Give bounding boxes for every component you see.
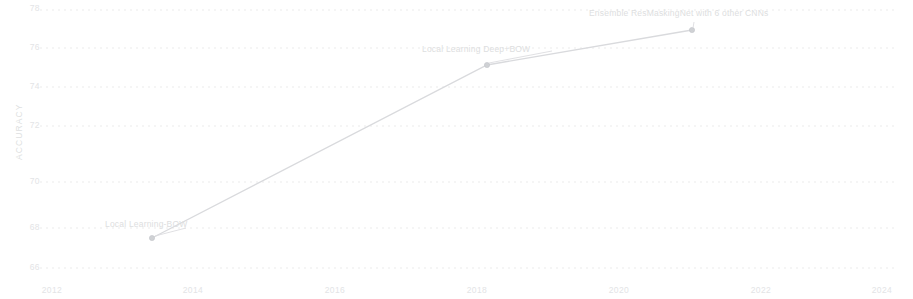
- chart-container: ACCURACY 78 76 74 72 70 68 66 2012 2014 …: [0, 0, 913, 299]
- y-tick-label-76: 76: [14, 42, 40, 52]
- data-point-label-ensemble-resmaskingnet: Ensemble ResMaskingNet with 6 other CNNs: [589, 8, 768, 18]
- x-tick-label-2024: 2024: [852, 285, 912, 295]
- y-tick-label-66: 66: [14, 262, 40, 272]
- x-tick-label-2022: 2022: [731, 285, 791, 295]
- data-point-marker[interactable]: [149, 235, 154, 240]
- y-tick-label-72: 72: [14, 120, 40, 130]
- x-tick-label-2014: 2014: [163, 285, 223, 295]
- x-tick-label-2018: 2018: [447, 285, 507, 295]
- data-point-marker[interactable]: [689, 27, 694, 32]
- y-tick-label-68: 68: [14, 222, 40, 232]
- series-state-of-the-art: [149, 27, 694, 240]
- leader-line-3: [693, 22, 694, 28]
- x-tick-label-2012: 2012: [22, 285, 82, 295]
- data-point-label-local-learning-deep-bow: Local Learning Deep+BOW: [422, 44, 530, 54]
- x-tick-label-2020: 2020: [589, 285, 649, 295]
- data-point-marker[interactable]: [484, 62, 489, 67]
- series-line-path: [152, 30, 692, 238]
- x-tick-label-2016: 2016: [305, 285, 365, 295]
- y-tick-label-70: 70: [14, 176, 40, 186]
- y-axis-title: ACCURACY: [14, 103, 24, 160]
- data-point-label-local-learning-bow: Local Learning-BOW: [105, 219, 188, 229]
- y-tick-label-78: 78: [14, 3, 40, 13]
- annotation-leaders: [155, 22, 694, 236]
- y-tick-label-74: 74: [14, 81, 40, 91]
